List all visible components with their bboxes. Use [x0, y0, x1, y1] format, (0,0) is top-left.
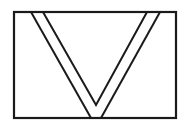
outer-v-right-stroke	[101, 12, 160, 118]
v-diagram	[0, 0, 190, 130]
outer-v-left-stroke	[31, 12, 91, 118]
inner-v-stroke	[43, 12, 147, 105]
